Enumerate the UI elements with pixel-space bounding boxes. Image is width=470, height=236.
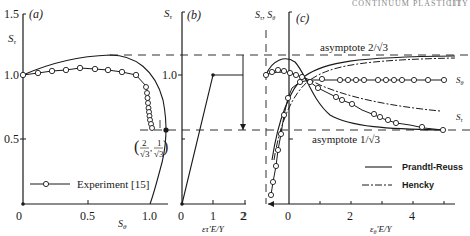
circle-marker-icon [43,181,48,186]
svg-text:Experiment [15]: Experiment [15] [77,178,149,190]
ytick: 1.5 [4,7,19,21]
panel-a: 1.5 1.0 0.5 0 0.5 1.0 (a) Sτ Sθ ( 2 [4,7,169,231]
ytick: 0.5 [4,132,19,146]
xtick: 0.5 [80,209,95,223]
svg-text:Hencky: Hencky [402,180,434,190]
experiment-curve [23,68,152,128]
curve-label-s-theta: Sθ [456,75,464,86]
panel-b: (b) Sτ 1.0 0 1 2 ετ'E/Y [162,7,247,234]
prandtl-reuss-s-tau [266,59,440,130]
ytick: 1.0 [4,68,19,82]
svg-text:1: 1 [157,138,162,148]
xtick: 4 [409,209,415,223]
asymptote-upper-label: asymptote 2/√3 [320,41,389,53]
arrow-left-icon [268,201,274,207]
xtick: 0 [178,209,184,223]
svg-text:): ) [163,138,168,156]
y-axis-label: Sτ, Sθ [255,9,275,21]
xtick: 1 [210,209,216,223]
legend-experiment: Experiment [15] [30,178,149,190]
xtick: 0 [16,209,22,223]
xtick: 0 [285,209,291,223]
ytick: 1.0 [162,68,177,82]
panel-c: (c) Sτ, Sθ 2 0 2 4 εθ'E/Y asymptote 2/√3… [240,9,464,235]
page-number: 111 [448,0,462,8]
panel-label: (b) [187,8,201,22]
x-axis-label: εθ'E/Y [370,224,392,235]
curve-label-s-tau: Sτ [456,112,464,123]
svg-text:Prandtl-Reuss: Prandtl-Reuss [402,162,463,172]
loading-curve [182,75,243,204]
experiment-markers [20,65,154,130]
asymptote-lower-label: asymptote 1/√3 [312,133,381,145]
svg-text:,: , [150,143,152,153]
panel-label: (c) [296,11,309,25]
x-axis-label: Sθ [118,218,127,231]
y-axis-label: Sτ [164,7,173,21]
xtick: 2 [240,209,246,223]
legend-prandtl-reuss: Prandtl-Reuss [365,162,463,172]
svg-text:√3: √3 [140,149,150,159]
x-axis-label: ετ'E/Y [202,224,225,234]
experiment-s-tau-markers [263,67,445,132]
figure: CONTINUUM PLASTICITY 111 1.5 1.0 0.5 0 0… [0,0,470,236]
panel-label: (a) [29,7,43,21]
yield-point-marker [163,127,168,132]
svg-text:2: 2 [142,138,147,148]
y-axis-label: Sτ [8,32,17,46]
arrow-down-icon [240,124,246,130]
svg-text:(: ( [134,138,139,156]
xtick: 1.0 [142,209,157,223]
xtick: 2 [347,209,353,223]
legend-hencky: Hencky [362,180,434,190]
point-annotation: ( 2 √3 , 1 √3 ) [134,138,168,159]
